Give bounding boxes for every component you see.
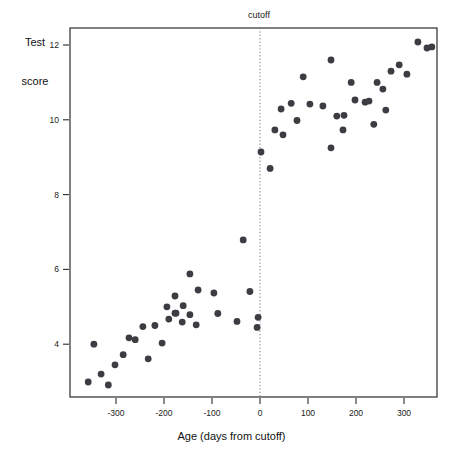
data-point — [85, 379, 92, 386]
data-point — [91, 341, 98, 348]
data-point — [370, 121, 377, 128]
y-tick-label: 4 — [54, 339, 59, 349]
data-point — [172, 310, 179, 317]
data-point — [341, 112, 348, 119]
data-point — [254, 324, 261, 331]
data-point — [352, 97, 359, 104]
data-point — [112, 361, 119, 368]
data-point — [247, 288, 254, 295]
data-point — [98, 371, 105, 378]
data-point — [374, 79, 381, 86]
data-point — [267, 165, 274, 172]
data-point — [333, 113, 340, 120]
data-point — [105, 382, 112, 389]
plot-canvas: -300-200-10001002003004681012 — [0, 0, 463, 454]
data-point — [340, 126, 347, 133]
data-point — [211, 290, 218, 297]
data-point — [120, 351, 127, 358]
data-point — [240, 237, 247, 244]
data-point — [380, 86, 387, 93]
data-point — [193, 321, 200, 328]
data-point — [234, 318, 241, 325]
data-point — [366, 98, 373, 105]
data-points — [85, 39, 435, 389]
scatter-plot-figure: Test score cutoff -300-200-1000100200300… — [0, 0, 463, 454]
data-point — [180, 302, 187, 309]
data-point — [140, 323, 147, 330]
x-tick-label: 0 — [258, 408, 263, 418]
y-tick-label: 6 — [54, 264, 59, 274]
data-point — [152, 322, 159, 329]
x-tick-label: -200 — [155, 408, 172, 418]
data-point — [187, 311, 194, 318]
data-point — [187, 271, 194, 278]
data-point — [214, 310, 221, 317]
data-point — [415, 39, 422, 46]
x-tick-label: -300 — [107, 408, 124, 418]
data-point — [382, 107, 389, 114]
data-point — [300, 73, 307, 80]
data-point — [404, 71, 411, 78]
data-point — [328, 144, 335, 151]
data-point — [396, 61, 403, 68]
data-point — [132, 336, 139, 343]
data-point — [272, 126, 279, 133]
x-tick-label: -100 — [203, 408, 220, 418]
data-point — [294, 117, 301, 124]
axis-ticks: -300-200-10001002003004681012 — [50, 40, 412, 418]
data-point — [126, 334, 133, 341]
y-axis-title: Test score — [8, 10, 62, 114]
data-point — [165, 316, 172, 323]
data-point — [320, 103, 327, 110]
data-point — [255, 314, 262, 321]
y-tick-label: 8 — [54, 190, 59, 200]
data-point — [307, 101, 314, 108]
data-point — [328, 57, 335, 64]
cutoff-annotation-label: cutoff — [248, 10, 270, 20]
x-tick-label: 300 — [397, 408, 411, 418]
data-point — [172, 293, 179, 300]
data-point — [348, 79, 355, 86]
y-axis-title-line1: Test — [8, 36, 62, 49]
data-point — [288, 100, 295, 107]
data-point — [278, 106, 285, 113]
data-point — [428, 44, 435, 51]
y-axis-title-line2: score — [8, 75, 62, 88]
data-point — [280, 131, 287, 138]
data-point — [164, 303, 171, 310]
data-point — [388, 68, 395, 75]
data-point — [179, 319, 186, 326]
x-axis-title: Age (days from cutoff) — [0, 430, 463, 443]
data-point — [145, 355, 152, 362]
y-tick-label: 10 — [50, 115, 60, 125]
data-point — [195, 287, 202, 294]
data-point — [258, 149, 265, 156]
x-tick-label: 100 — [301, 408, 315, 418]
plot-frame — [70, 28, 437, 397]
data-point — [159, 340, 166, 347]
x-tick-label: 200 — [349, 408, 363, 418]
